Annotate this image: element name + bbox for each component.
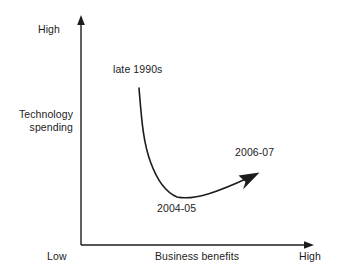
x-axis-high-label: High xyxy=(299,250,321,263)
chart-figure: High Technologyspending late 1990s 2004-… xyxy=(0,0,338,276)
chart-canvas xyxy=(0,0,338,276)
x-axis-arrowhead-icon xyxy=(304,241,314,249)
y-axis-high-label: High xyxy=(38,23,60,36)
y-axis-title-line2: spending xyxy=(30,121,73,133)
y-axis-arrowhead-icon xyxy=(77,15,85,25)
y-axis-title: Technologyspending xyxy=(0,108,73,133)
x-axis-low-label: Low xyxy=(47,250,67,263)
annotation-2006-07: 2006-07 xyxy=(235,146,274,159)
annotation-2004-05: 2004-05 xyxy=(157,202,196,215)
annotation-late-1990s: late 1990s xyxy=(113,63,162,76)
trajectory-curve xyxy=(139,88,249,198)
y-axis-title-line1: Technology xyxy=(19,108,73,120)
x-axis-title: Business benefits xyxy=(155,250,239,263)
